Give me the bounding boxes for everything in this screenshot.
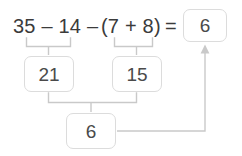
expression-left-term: 35 – 14 – <box>13 16 104 36</box>
partial-result-right-box[interactable]: 15 <box>112 56 162 92</box>
arrow-head-icon <box>201 45 210 54</box>
final-result-box[interactable]: 6 <box>66 113 116 149</box>
answer-box[interactable]: 6 <box>183 9 227 42</box>
partial-result-left-box[interactable]: 21 <box>24 56 74 92</box>
equals-sign: = <box>165 16 177 36</box>
answer-box-value: 6 <box>200 16 211 35</box>
partial-result-left-value: 21 <box>38 65 59 84</box>
bracket-left-icon <box>27 38 71 47</box>
math-expression-diagram: 35 – 14 – (7 + 8) = 6 21 15 6 <box>0 0 242 156</box>
final-result-value: 6 <box>86 122 97 141</box>
bracket-right-icon <box>115 38 153 47</box>
expression-right-term: (7 + 8) <box>101 16 161 36</box>
bracket-join-icon <box>49 93 137 103</box>
partial-result-right-value: 15 <box>126 65 147 84</box>
